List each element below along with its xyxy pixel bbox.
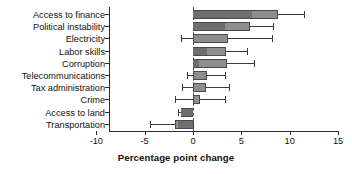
error-bar-cap-high bbox=[273, 23, 274, 30]
chart-bar-row bbox=[0, 46, 352, 58]
y-axis-tick bbox=[105, 63, 109, 64]
chart-bar-row bbox=[0, 9, 352, 21]
error-bar-cap-low bbox=[187, 72, 188, 79]
chart-bar-inner-segment bbox=[193, 60, 199, 67]
x-axis-tick-label: 5 bbox=[226, 136, 256, 147]
y-axis-tick bbox=[105, 112, 109, 113]
y-axis-tick bbox=[105, 99, 109, 100]
error-bar-cap-high bbox=[193, 121, 194, 128]
chart-bar-inner-segment bbox=[193, 23, 225, 30]
error-bar-cap-high bbox=[304, 11, 305, 18]
y-axis-tick bbox=[105, 75, 109, 76]
error-bar-cap-low bbox=[182, 84, 183, 91]
chart-bar bbox=[193, 71, 207, 80]
y-axis-tick bbox=[105, 124, 109, 125]
error-bar-cap-low bbox=[150, 121, 151, 128]
chart-bar-row bbox=[0, 94, 352, 106]
x-axis-tick bbox=[241, 131, 242, 135]
error-bar-cap-high bbox=[247, 48, 248, 55]
x-axis-tick bbox=[193, 131, 194, 135]
x-axis-tick-label: 10 bbox=[275, 136, 305, 147]
y-axis-tick bbox=[105, 14, 109, 15]
x-axis-tick-label: -5 bbox=[130, 136, 160, 147]
error-bar-cap-high bbox=[254, 60, 255, 67]
x-axis-tick-label: 15 bbox=[323, 136, 352, 147]
y-axis-tick bbox=[105, 87, 109, 88]
error-bar-cap-high bbox=[229, 84, 230, 91]
chart-bar-row bbox=[0, 107, 352, 119]
error-bar-cap-low bbox=[178, 109, 179, 116]
chart-bar bbox=[193, 83, 206, 92]
x-axis-tick bbox=[338, 131, 339, 135]
x-axis-tick bbox=[145, 131, 146, 135]
y-axis-tick bbox=[105, 51, 109, 52]
x-axis-title: Percentage point change bbox=[0, 152, 352, 163]
x-axis-line bbox=[109, 131, 339, 132]
chart-bar-row bbox=[0, 70, 352, 82]
error-bar-cap-high bbox=[225, 72, 226, 79]
chart-bar-inner-segment bbox=[193, 48, 207, 55]
error-bar-cap-high bbox=[225, 96, 226, 103]
x-axis-tick bbox=[290, 131, 291, 135]
chart-bar-inner-segment bbox=[193, 11, 252, 18]
y-axis-tick bbox=[105, 38, 109, 39]
error-bar-cap-high bbox=[272, 35, 273, 42]
x-axis-tick-label: -10 bbox=[81, 136, 111, 147]
error-bar-cap-low bbox=[181, 35, 182, 42]
chart-bar-inner-segment bbox=[181, 109, 193, 116]
chart-bar-row bbox=[0, 119, 352, 131]
chart-bar-row bbox=[0, 82, 352, 94]
chart-bar bbox=[193, 34, 228, 43]
y-axis-line bbox=[109, 7, 110, 131]
plot-area bbox=[0, 0, 352, 132]
x-axis-tick bbox=[96, 131, 97, 135]
chart-figure: Access to financePolitical instabilityEl… bbox=[0, 0, 352, 174]
chart-bar-row bbox=[0, 33, 352, 45]
x-axis-tick-label: 0 bbox=[178, 136, 208, 147]
chart-bar-inner-segment bbox=[178, 121, 193, 128]
chart-bar bbox=[193, 95, 200, 104]
chart-bar-row bbox=[0, 21, 352, 33]
y-axis-tick bbox=[105, 26, 109, 27]
chart-bar-row bbox=[0, 58, 352, 70]
error-bar-cap-low bbox=[175, 96, 176, 103]
